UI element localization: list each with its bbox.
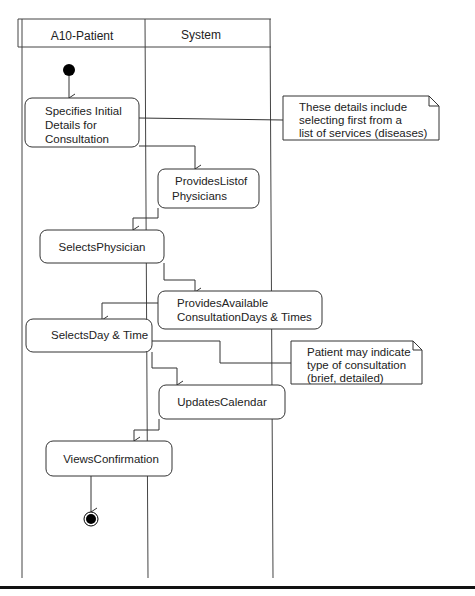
activity-provides-available-days[interactable]: ProvidesAvailable ConsultationDays & Tim…: [158, 291, 322, 329]
end-node-icon: [84, 512, 98, 526]
activity-views-confirmation[interactable]: ViewsConfirmation: [46, 441, 172, 476]
activity-selects-physician[interactable]: SelectsPhysician: [40, 230, 164, 263]
svg-text:UpdatesCalendar: UpdatesCalendar: [177, 396, 267, 408]
svg-text:Patient may indicate: Patient may indicate: [307, 346, 411, 358]
svg-text:type of consultation: type of consultation: [307, 359, 406, 371]
svg-text:SelectsDay & Time: SelectsDay & Time: [51, 329, 148, 341]
svg-text:ProvidesListof: ProvidesListof: [175, 175, 248, 187]
svg-text:ViewsConfirmation: ViewsConfirmation: [63, 453, 159, 465]
activity-provides-list-of-physicians[interactable]: ProvidesListof Physicians: [158, 169, 259, 208]
svg-text:Consultation: Consultation: [45, 133, 109, 145]
start-node-icon: [63, 64, 75, 76]
flow-a2-a3: [133, 208, 158, 230]
svg-text:Details for: Details for: [45, 119, 97, 131]
flow-a5-a6: [152, 352, 177, 385]
lane-header-patient: A10-Patient: [51, 29, 114, 43]
svg-text:(brief, detailed): (brief, detailed): [307, 372, 384, 384]
bottom-rule: [0, 586, 475, 589]
flow-a4-a5: [102, 303, 158, 320]
flow-a3-a4: [164, 263, 195, 292]
activity-specifies-initial-details[interactable]: Specifies Initial Details for Consultati…: [25, 98, 139, 147]
flow-a6-a7: [134, 419, 159, 441]
note-consultation-type: Patient may indicate type of consultatio…: [291, 341, 422, 384]
svg-text:list of services (diseases): list of services (diseases): [299, 127, 428, 139]
svg-text:ProvidesAvailable: ProvidesAvailable: [177, 297, 268, 309]
lane-label-system: System: [181, 28, 221, 42]
activity-selects-day-and-time[interactable]: SelectsDay & Time: [26, 319, 152, 352]
activity-diagram: A10-Patient System Specifies Initial Det…: [0, 0, 475, 596]
svg-text:SelectsPhysician: SelectsPhysician: [59, 241, 146, 253]
note-connector-2: [152, 341, 291, 363]
svg-text:ConsultationDays & Times: ConsultationDays & Times: [177, 311, 312, 323]
note-services: These details include selecting first fr…: [283, 96, 439, 140]
svg-text:These details include: These details include: [299, 101, 407, 113]
svg-text:Specifies Initial: Specifies Initial: [45, 105, 122, 117]
svg-text:Physicians: Physicians: [172, 190, 227, 202]
lane-header-system: System: [181, 28, 221, 42]
svg-text:selecting first from a: selecting first from a: [299, 114, 402, 126]
lane-label-patient: A10-Patient: [51, 29, 114, 43]
activity-updates-calendar[interactable]: UpdatesCalendar: [159, 385, 285, 419]
note-connector-1: [139, 118, 283, 120]
flow-a1-a2: [139, 146, 195, 169]
